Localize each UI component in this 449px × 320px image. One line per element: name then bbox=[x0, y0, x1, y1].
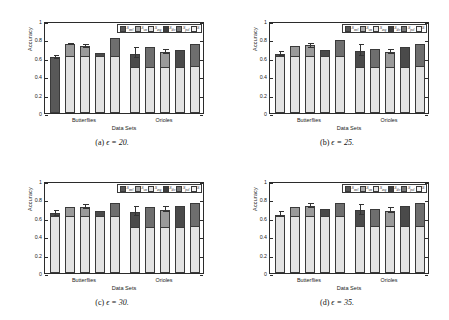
legend-item-label: Spol bbox=[408, 186, 414, 192]
legend-item-label: Ssm bbox=[141, 186, 147, 192]
bar-S_sm bbox=[65, 44, 75, 113]
legend-item-S: S bbox=[415, 26, 425, 32]
bar-group-orioles bbox=[350, 23, 430, 113]
legend: SmvlSsmSavgSdivSpolS bbox=[342, 184, 427, 193]
error-bar bbox=[280, 51, 281, 57]
bar-cap-segment bbox=[66, 45, 74, 57]
x-axis-label: Data Sets bbox=[269, 285, 429, 291]
y-tick-label: 0.8 bbox=[16, 197, 42, 203]
legend-item-label: Sdiv bbox=[394, 186, 400, 192]
bar-S_avg bbox=[385, 211, 395, 273]
bar-S_pol bbox=[110, 38, 120, 113]
error-bar bbox=[310, 203, 311, 209]
panel-caption-c: (c) ϵ = 30. bbox=[0, 298, 224, 307]
legend-item-label: Savg bbox=[155, 26, 162, 32]
legend-item-S_div: Sdiv bbox=[162, 186, 176, 192]
legend-item-label: Sdiv bbox=[169, 186, 175, 192]
axes-frame: SmvlSsmSavgSdivSpolS bbox=[44, 182, 204, 274]
y-tick-label: 0.6 bbox=[16, 216, 42, 222]
legend-item-S_mvl: Smvl bbox=[344, 26, 359, 32]
bar-S_div bbox=[175, 50, 185, 113]
y-axis-ticks: 00.20.40.60.81 bbox=[237, 22, 267, 114]
y-tick-label: 0 bbox=[16, 111, 42, 117]
legend-item-S_avg: Savg bbox=[147, 186, 162, 192]
legend-item-label: S bbox=[422, 186, 424, 191]
plot-area: SmvlSsmSavgSdivSpolS bbox=[44, 182, 204, 274]
legend-swatch-icon bbox=[345, 186, 351, 192]
x-tick-label: Orioles bbox=[124, 117, 204, 123]
bar-S_pol bbox=[335, 40, 345, 113]
legend-swatch-icon bbox=[416, 26, 422, 32]
legend-swatch-icon bbox=[135, 186, 141, 192]
error-bar bbox=[165, 49, 166, 54]
y-tick-label: 0 bbox=[16, 271, 42, 277]
bar-S_pol bbox=[415, 44, 425, 113]
error-bar bbox=[85, 44, 86, 49]
legend-item-label: Sdiv bbox=[169, 26, 175, 32]
bar-cap-segment bbox=[416, 45, 424, 68]
legend-item-S_sm: Ssm bbox=[134, 26, 148, 32]
legend-item-S: S bbox=[190, 186, 200, 192]
legend-item-S_sm: Ssm bbox=[359, 186, 373, 192]
bar-cap-segment bbox=[176, 207, 184, 227]
legend: SmvlSsmSavgSdivSpolS bbox=[117, 184, 202, 193]
legend-item-S_sm: Ssm bbox=[134, 186, 148, 192]
bar-cap-segment bbox=[96, 54, 104, 57]
bar-S_pol bbox=[190, 44, 200, 113]
x-tick-label: Orioles bbox=[124, 277, 204, 283]
legend-item-label: Savg bbox=[380, 26, 387, 32]
bar-cap-segment bbox=[336, 204, 344, 217]
bar-S_div bbox=[400, 206, 410, 273]
error-bar bbox=[55, 210, 56, 216]
legend-swatch-icon bbox=[416, 186, 422, 192]
y-axis-ticks: 00.20.40.60.81 bbox=[12, 22, 42, 114]
bar-S_mvl bbox=[50, 213, 60, 273]
bar-cap-segment bbox=[66, 208, 74, 217]
y-tick-label: 0.4 bbox=[241, 74, 267, 80]
bar-S_avg bbox=[305, 206, 315, 273]
bar-cap-segment bbox=[146, 208, 154, 228]
y-axis-ticks: 00.20.40.60.81 bbox=[237, 182, 267, 274]
bar-S_mvl bbox=[130, 212, 140, 273]
bar-S_sm bbox=[145, 47, 155, 113]
x-axis-label: Data Sets bbox=[44, 285, 204, 291]
bar-cap-segment bbox=[146, 48, 154, 67]
error-bar bbox=[55, 55, 56, 60]
y-tick-mark bbox=[45, 275, 48, 276]
bar-group-orioles bbox=[350, 183, 430, 273]
bar-cap-segment bbox=[306, 207, 314, 217]
legend-item-label: Savg bbox=[155, 186, 162, 192]
bar-S_mvl bbox=[355, 210, 365, 273]
bar-cap-segment bbox=[291, 47, 299, 56]
bar-S_pol bbox=[335, 203, 345, 273]
bar-S_pol bbox=[415, 203, 425, 273]
legend-swatch-icon bbox=[191, 26, 197, 32]
bar-S_div bbox=[320, 209, 330, 273]
bar-cap-segment bbox=[161, 211, 169, 228]
y-tick-label: 0.4 bbox=[16, 234, 42, 240]
y-tick-label: 0.4 bbox=[16, 74, 42, 80]
legend-item-S_avg: Savg bbox=[372, 26, 387, 32]
bar-group-butterflies bbox=[270, 23, 350, 113]
legend-swatch-icon bbox=[373, 26, 379, 32]
bar-cap-segment bbox=[111, 39, 119, 57]
legend-item-S_sm: Ssm bbox=[359, 26, 373, 32]
legend-swatch-icon bbox=[148, 26, 154, 32]
y-tick-label: 0.2 bbox=[241, 93, 267, 99]
axes-frame: SmvlSsmSavgSdivSpolS bbox=[269, 22, 429, 114]
y-axis-ticks: 00.20.40.60.81 bbox=[12, 182, 42, 274]
bar-group-orioles bbox=[125, 23, 205, 113]
legend-swatch-icon bbox=[148, 186, 154, 192]
y-tick-mark bbox=[425, 275, 428, 276]
bar-S_sm bbox=[290, 207, 300, 273]
y-tick-label: 0.8 bbox=[241, 197, 267, 203]
bar-cap-segment bbox=[191, 204, 199, 227]
bar-group-orioles bbox=[125, 183, 205, 273]
y-tick-label: 0.2 bbox=[241, 253, 267, 259]
y-tick-label: 0.8 bbox=[16, 37, 42, 43]
legend-item-label: Smvl bbox=[127, 26, 134, 32]
legend-item-S: S bbox=[415, 186, 425, 192]
bar-S_sm bbox=[370, 209, 380, 273]
bar-S_sm bbox=[65, 207, 75, 273]
bar-cap-segment bbox=[401, 207, 409, 227]
